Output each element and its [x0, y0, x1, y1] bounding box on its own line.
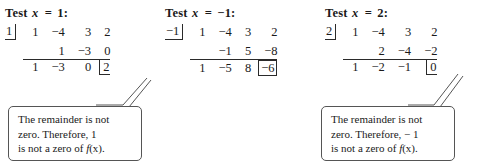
empty-cell [336, 44, 344, 60]
callout-line-2: zero. Therefore, 1 [18, 127, 133, 142]
coefficient-0: 1 [343, 24, 358, 40]
sum-2: 0 [65, 60, 91, 76]
divisor-spacer [183, 24, 191, 40]
divisor-value: −1 [165, 24, 183, 40]
table-row-coefficients: −1 1 −4 3 2 [165, 24, 277, 40]
synthetic-division-table: 1 1 −4 3 2 1 −3 0 [5, 24, 110, 75]
remainder-value: −6 [258, 60, 277, 76]
coefficient-2: 3 [65, 24, 91, 40]
product-0: 1 [39, 44, 65, 60]
coefficient-2: 3 [385, 24, 411, 40]
title-prefix: Test [325, 6, 348, 20]
synthetic-division-grid: 2 1 −4 3 2 2 −4 −2 [325, 24, 437, 75]
remainder-value: 0 [426, 60, 437, 75]
empty-cell [5, 60, 16, 76]
empty-cell [183, 44, 191, 60]
product-1: −3 [65, 44, 91, 60]
title-variable: x [351, 6, 359, 20]
callout-text: is not a zero of [18, 142, 86, 154]
page-title: Test x = 1: [5, 6, 68, 21]
coefficient-1: −4 [206, 24, 232, 40]
divisor-spacer [336, 24, 344, 40]
remainder-cell: 0 [411, 60, 437, 76]
divisor-spacer [16, 24, 24, 40]
sum-2: −1 [385, 60, 411, 76]
title-value: 2: [377, 6, 388, 20]
remainder-value: 2 [99, 60, 110, 75]
coefficient-2: 3 [232, 24, 251, 40]
sum-0: 1 [23, 60, 38, 76]
table-row-coefficients: 1 1 −4 3 2 [5, 24, 110, 40]
page-title: Test x = −1: [165, 6, 235, 21]
title-variable: x [191, 6, 199, 20]
title-variable: x [31, 6, 39, 20]
table-row-sums: 1 −5 8 −6 [165, 60, 277, 77]
empty-cell [183, 60, 191, 77]
callout-text: . [102, 142, 105, 154]
coefficient-1: −4 [359, 24, 385, 40]
synthetic-division-grid: 1 1 −4 3 2 1 −3 0 [5, 24, 110, 75]
synthetic-division-table: −1 1 −4 3 2 −1 5 −8 [165, 24, 277, 76]
sum-0: 1 [343, 60, 358, 76]
test-panel-x-equals-2: Test x = 2: 2 1 −4 3 2 2 [320, 0, 480, 168]
synthetic-division-table: 2 1 −4 3 2 2 −4 −2 [325, 24, 437, 75]
table-row-coefficients: 2 1 −4 3 2 [325, 24, 437, 40]
table-row-products: 2 −4 −2 [325, 44, 437, 60]
sum-1: −2 [359, 60, 385, 76]
coefficient-3: 2 [91, 24, 110, 40]
table-row-sums: 1 −3 0 2 [5, 60, 110, 76]
coefficient-1: −4 [39, 24, 65, 40]
product-0: 2 [359, 44, 385, 60]
test-panel-x-equals-minus-1: Test x = −1: −1 1 −4 3 2 −1 [160, 0, 320, 168]
sum-0: 1 [190, 60, 205, 77]
product-0: −1 [206, 44, 232, 60]
coefficient-3: 2 [251, 24, 277, 40]
sum-1: −5 [206, 60, 232, 77]
page-title: Test x = 2: [325, 6, 388, 21]
coefficient-0: 1 [190, 24, 205, 40]
coefficient-0: 1 [23, 24, 38, 40]
product-2: −8 [251, 44, 277, 60]
product-1: −4 [385, 44, 411, 60]
callout-line-3: is not a zero of f(x). [18, 141, 133, 156]
coefficient-3: 2 [411, 24, 437, 40]
product-empty [343, 44, 358, 60]
title-equals: = [43, 6, 54, 20]
title-equals: = [203, 6, 214, 20]
empty-cell [325, 44, 336, 60]
product-2: 0 [91, 44, 110, 60]
empty-cell [165, 44, 183, 60]
empty-cell [336, 60, 344, 76]
empty-cell [5, 44, 16, 60]
empty-cell [16, 60, 24, 76]
product-1: 5 [232, 44, 251, 60]
product-empty [190, 44, 205, 60]
divisor-value: 2 [325, 24, 336, 40]
remainder-cell: −6 [251, 60, 277, 77]
product-2: −2 [411, 44, 437, 60]
callout-box: The remainder is not zero. Therefore, 1 … [8, 106, 142, 161]
empty-cell [165, 60, 183, 77]
callout-text: The remainder is not [18, 113, 109, 125]
remainder-cell: 2 [91, 60, 110, 76]
title-value: 1: [57, 6, 68, 20]
title-value: −1: [217, 6, 235, 20]
product-empty [23, 44, 38, 60]
sum-1: −3 [39, 60, 65, 76]
empty-cell [16, 44, 24, 60]
divisor-value: 1 [5, 24, 16, 40]
title-prefix: Test [5, 6, 28, 20]
table-row-products: 1 −3 0 [5, 44, 110, 60]
table-row-sums: 1 −2 −1 0 [325, 60, 437, 76]
function-argument: (x) [89, 142, 102, 154]
empty-cell [325, 60, 336, 76]
callout-line-1: The remainder is not [18, 112, 133, 127]
title-equals: = [363, 6, 374, 20]
test-panel-x-equals-1: Test x = 1: 1 1 −4 3 2 1 [0, 0, 160, 168]
title-prefix: Test [165, 6, 188, 20]
sum-2: 8 [232, 60, 251, 77]
synthetic-division-grid: −1 1 −4 3 2 −1 5 −8 [165, 24, 277, 76]
table-row-products: −1 5 −8 [165, 44, 277, 60]
